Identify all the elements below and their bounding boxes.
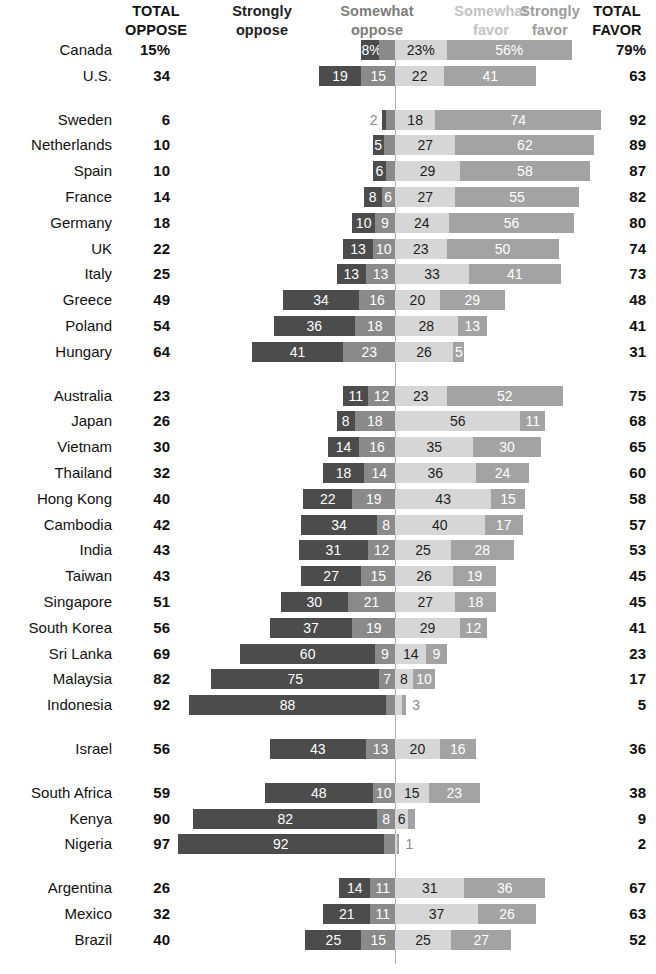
segment-somewhat-favor: 26 — [395, 342, 453, 362]
segment-somewhat-favor: 18 — [395, 110, 435, 130]
segment-strongly-favor: 55 — [455, 187, 578, 207]
segment-strongly-favor — [402, 695, 406, 715]
segment-somewhat-oppose: 8 — [377, 515, 395, 535]
stacked-bar: 62958 — [0, 161, 656, 181]
chart-header: TOTAL OPPOSE Strongly oppose Somewhat op… — [0, 0, 656, 42]
segment-strongly-oppose: 88 — [189, 695, 386, 715]
segment-strongly-oppose: 34 — [301, 515, 377, 535]
segment-somewhat-favor: 23 — [395, 239, 447, 259]
chart-row: France1482862755 — [0, 185, 656, 209]
chart-row: Thailand326018143624 — [0, 461, 656, 485]
segment-strongly-favor: 56 — [449, 213, 574, 233]
segment-strongly-favor: 58 — [460, 161, 590, 181]
segment-strongly-oppose: 18 — [323, 463, 363, 483]
stacked-bar: 8286 — [0, 809, 656, 829]
stacked-bar: 48101523 — [0, 783, 656, 803]
segment-strongly-oppose: 48 — [265, 783, 373, 803]
chart-row: Taiwan434527152619 — [0, 564, 656, 588]
segment-somewhat-favor: 8 — [395, 669, 413, 689]
segment-strongly-oppose: 19 — [319, 66, 362, 86]
segment-somewhat-oppose — [384, 135, 395, 155]
segment-somewhat-oppose: 15 — [361, 566, 395, 586]
segment-strongly-oppose: 21 — [323, 904, 370, 924]
chart-row: Brazil405225152527 — [0, 928, 656, 952]
stacked-bar: 27152619 — [0, 566, 656, 586]
segment-strongly-favor: 30 — [473, 437, 540, 457]
stacked-bar: 3484017 — [0, 515, 656, 535]
chart-row: Israel563643132016 — [0, 737, 656, 761]
segment-strongly-favor: 12 — [460, 618, 487, 638]
segment-strongly-oppose: 60 — [240, 644, 374, 664]
segment-somewhat-favor: 37 — [395, 904, 478, 924]
segment-strongly-oppose: 30 — [281, 592, 348, 612]
segment-somewhat-oppose: 6 — [382, 187, 395, 207]
stacked-bar: 31122528 — [0, 540, 656, 560]
segment-strongly-favor: 41 — [444, 66, 536, 86]
segment-somewhat-favor: 36 — [395, 463, 476, 483]
segment-strongly-oppose: 14 — [339, 878, 370, 898]
chart-row: Mexico326321113726 — [0, 902, 656, 926]
chart-row: Netherlands108952762 — [0, 133, 656, 157]
segment-somewhat-oppose: 11 — [370, 878, 395, 898]
segment-somewhat-oppose: 18 — [355, 316, 395, 336]
segment-strongly-oppose: 22 — [303, 489, 352, 509]
segment-strongly-oppose: 43 — [270, 739, 366, 759]
segment-somewhat-favor: 33 — [395, 264, 469, 284]
segment-somewhat-favor: 25 — [395, 540, 451, 560]
stacked-bar: 11122352 — [0, 386, 656, 406]
segment-strongly-favor: 29 — [440, 290, 505, 310]
chart-row: Hong Kong405822194315 — [0, 487, 656, 511]
segment-somewhat-favor: 35 — [395, 437, 473, 457]
stacked-bar: 14163530 — [0, 437, 656, 457]
segment-strongly-favor: 5 — [453, 342, 464, 362]
stacked-bar: 14113136 — [0, 878, 656, 898]
segment-somewhat-oppose: 14 — [364, 463, 395, 483]
chart-row: Germany18801092456 — [0, 211, 656, 235]
chart-row: Argentina266714113136 — [0, 876, 656, 900]
segment-somewhat-oppose: 9 — [375, 644, 395, 664]
segment-somewhat-oppose — [386, 161, 395, 181]
segment-somewhat-favor-outside-label: 1 — [405, 834, 413, 854]
chart-row: South Africa593848101523 — [0, 781, 656, 805]
segment-strongly-favor: 23 — [429, 783, 481, 803]
segment-strongly-favor — [397, 834, 399, 854]
segment-somewhat-favor: 29 — [395, 618, 460, 638]
chart-row: Sri Lanka6923609149 — [0, 642, 656, 666]
segment-strongly-oppose: 14 — [328, 437, 359, 457]
segment-strongly-favor: 11 — [520, 411, 545, 431]
stacked-bar: 19152241 — [0, 66, 656, 86]
segment-somewhat-favor: 28 — [395, 316, 458, 336]
segment-strongly-oppose: 13 — [343, 239, 372, 259]
segment-somewhat-favor: 26 — [395, 566, 453, 586]
segment-somewhat-favor: 20 — [395, 290, 440, 310]
segment-somewhat-favor: 22 — [395, 66, 444, 86]
stacked-bar: 8%23%56% — [0, 40, 656, 60]
segment-strongly-favor: 16 — [440, 739, 476, 759]
segment-somewhat-oppose: 11 — [370, 904, 395, 924]
header-total-oppose: TOTAL OPPOSE — [110, 2, 202, 40]
chart-row: South Korea564137192912 — [0, 616, 656, 640]
stacked-bar: 21113726 — [0, 904, 656, 924]
segment-somewhat-oppose: 9 — [375, 213, 395, 233]
chart-row: Indonesia925883 — [0, 693, 656, 717]
segment-strongly-favor: 52 — [447, 386, 563, 406]
segment-strongly-oppose: 5 — [373, 135, 384, 155]
header-strongly-oppose-line1: Strongly — [208, 2, 316, 21]
segment-somewhat-oppose: 12 — [368, 540, 395, 560]
chart-row: Spain108762958 — [0, 159, 656, 183]
segment-somewhat-oppose: 15 — [361, 930, 395, 950]
chart-row: Italy257313133341 — [0, 262, 656, 286]
chart-row: Nigeria972921 — [0, 832, 656, 856]
diverging-stacked-bar-chart: TOTAL OPPOSE Strongly oppose Somewhat op… — [0, 0, 656, 974]
segment-strongly-oppose: 41 — [252, 342, 344, 362]
segment-strongly-oppose: 8 — [337, 411, 355, 431]
segment-strongly-oppose: 27 — [301, 566, 361, 586]
segment-strongly-favor: 17 — [485, 515, 523, 535]
segment-somewhat-oppose — [379, 40, 395, 60]
chart-row: India435331122528 — [0, 538, 656, 562]
segment-strongly-favor: 41 — [469, 264, 561, 284]
chart-row: Canada15%79%8%23%56% — [0, 38, 656, 62]
segment-somewhat-favor: 24 — [395, 213, 449, 233]
segment-somewhat-oppose: 12 — [368, 386, 395, 406]
segment-somewhat-oppose: 18 — [355, 411, 395, 431]
